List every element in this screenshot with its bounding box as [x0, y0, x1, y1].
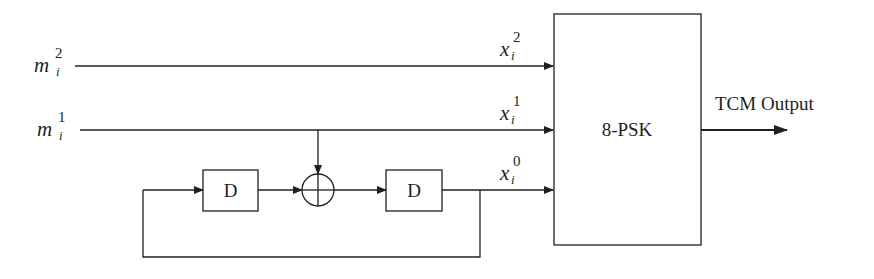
- output-x2-label: x 2 i: [499, 29, 521, 63]
- svg-text:i: i: [511, 172, 515, 187]
- svg-text:x: x: [499, 37, 510, 61]
- output-x1-label: x 1 i: [499, 93, 521, 127]
- svg-text:x: x: [499, 101, 510, 125]
- svg-text:i: i: [511, 112, 515, 127]
- svg-text:i: i: [511, 48, 515, 63]
- svg-text:i: i: [59, 128, 63, 143]
- svg-text:m: m: [34, 53, 49, 77]
- input-m1-label: m 1 i: [37, 109, 66, 143]
- svg-text:1: 1: [58, 109, 66, 125]
- svg-text:2: 2: [513, 29, 521, 45]
- delay-block-2: D: [386, 170, 442, 211]
- xor-adder-icon: [302, 174, 334, 206]
- svg-text:8-PSK: 8-PSK: [602, 119, 653, 140]
- svg-text:2: 2: [55, 45, 63, 61]
- svg-text:D: D: [407, 180, 421, 201]
- svg-text:1: 1: [513, 93, 521, 109]
- psk-mapper-block: 8-PSK: [554, 14, 701, 245]
- svg-text:i: i: [56, 64, 60, 79]
- tcm-output-label: TCM Output: [715, 93, 814, 114]
- svg-text:m: m: [37, 117, 52, 141]
- output-x0-label: x 0 i: [499, 153, 521, 187]
- svg-text:0: 0: [513, 153, 521, 169]
- input-m2-label: m 2 i: [34, 45, 63, 79]
- svg-text:D: D: [224, 180, 238, 201]
- delay-block-1: D: [203, 170, 258, 211]
- tcm-encoder-diagram: m 2 i m 1 i D D x 2 i x 1 i: [0, 0, 874, 279]
- svg-text:x: x: [499, 161, 510, 185]
